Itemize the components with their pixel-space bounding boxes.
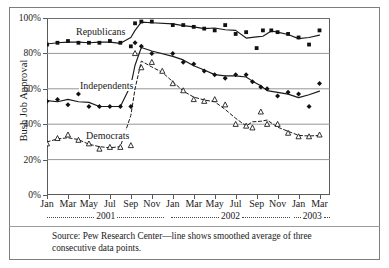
y-tick-mark-80 — [43, 53, 47, 54]
x-tick-label-2: May — [80, 198, 98, 209]
x-tick-label-9: Jul — [230, 198, 242, 209]
datapoint-republicans-17 — [223, 23, 227, 27]
datapoint-independents-17 — [223, 76, 228, 81]
year-band-2002: 2002 — [171, 211, 290, 223]
year-band-label: 2003 — [301, 212, 324, 222]
datapoint-independents-9 — [133, 40, 138, 45]
datapoint-republicans-8 — [129, 44, 133, 48]
plot-area: 0%20%40%60%80%100%RepublicansIndependent… — [47, 18, 330, 195]
datapoint-independents-3 — [76, 92, 81, 97]
x-axis-year-bands: 200120022003 — [47, 211, 330, 224]
datapoint-republicans-25 — [297, 36, 301, 40]
datapoint-independents-16 — [212, 72, 217, 77]
series-label-independents: Independents — [79, 80, 134, 91]
y-tick-label-60: 60% — [1, 84, 41, 94]
datapoint-independents-7 — [118, 104, 123, 109]
x-tick-label-11: Nov — [269, 198, 286, 209]
year-band-2001: 2001 — [47, 211, 164, 223]
datapoint-independents-26 — [307, 104, 312, 109]
series-label-republicans: Republicans — [75, 26, 126, 37]
datapoint-democrats-6 — [107, 144, 112, 149]
year-band-rule-left — [171, 217, 219, 218]
x-tick-label-10: Sep — [249, 198, 264, 209]
datapoint-republicans-13 — [181, 23, 185, 27]
datapoint-independents-5 — [97, 104, 102, 109]
y-tick-label-20: 20% — [1, 155, 41, 165]
datapoint-republicans-21 — [261, 28, 265, 32]
x-tick-label-6: Jan — [166, 198, 179, 209]
datapoint-independents-14 — [191, 62, 196, 67]
x-tick-label-8: May — [206, 198, 224, 209]
datapoint-republicans-11 — [150, 20, 154, 24]
datapoint-democrats-11 — [149, 59, 154, 64]
y-tick-label-80: 80% — [1, 48, 41, 58]
datapoint-republicans-19 — [244, 30, 248, 34]
datapoint-independents-23 — [275, 93, 280, 98]
x-tick-label-12: Jan — [292, 198, 305, 209]
datapoint-independents-4 — [86, 104, 91, 109]
y-tick-label-40: 40% — [1, 119, 41, 129]
datapoint-independents-0 — [47, 99, 50, 104]
datapoint-republicans-14 — [192, 25, 196, 29]
y-tick-mark-40 — [43, 124, 47, 125]
datapoint-republicans-18 — [234, 32, 238, 36]
datapoint-democrats-2 — [65, 132, 70, 137]
year-band-rule-right — [117, 217, 164, 218]
datapoint-independents-12 — [170, 51, 175, 56]
datapoint-democrats-8 — [128, 143, 133, 148]
datapoint-republicans-9 — [133, 21, 137, 25]
datapoint-republicans-1 — [56, 41, 60, 45]
x-tick-label-0: Jan — [40, 198, 53, 209]
datapoint-democrats-12 — [160, 68, 165, 73]
datapoint-republicans-15 — [202, 27, 206, 31]
chart-canvas — [47, 18, 330, 195]
datapoint-republicans-20 — [255, 46, 259, 50]
year-band-label: 2002 — [219, 212, 242, 222]
y-tick-mark-60 — [43, 89, 47, 90]
datapoint-republicans-7 — [118, 41, 122, 45]
datapoint-republicans-16 — [213, 28, 217, 32]
y-tick-mark-20 — [43, 160, 47, 161]
datapoint-independents-2 — [65, 102, 70, 107]
year-band-label: 2001 — [94, 212, 117, 222]
footnote-divider — [9, 226, 380, 227]
datapoint-independents-6 — [107, 104, 112, 109]
year-band-rule-left — [47, 217, 94, 218]
datapoint-republicans-24 — [286, 32, 290, 36]
datapoint-republicans-0 — [47, 43, 49, 47]
datapoint-republicans-22 — [269, 28, 273, 32]
y-tick-label-100: 100% — [1, 13, 41, 23]
datapoint-democrats-18 — [223, 102, 228, 107]
datapoint-democrats-1 — [55, 136, 60, 141]
datapoint-democrats-28 — [317, 132, 322, 137]
datapoint-democrats-22 — [258, 109, 263, 114]
x-tick-label-13: Mar — [311, 198, 328, 209]
year-band-rule-right — [242, 217, 290, 218]
source-note: Source: Pew Research Center—line shows s… — [52, 231, 352, 254]
x-tick-label-7: Mar — [185, 198, 202, 209]
series-independents — [47, 40, 322, 109]
x-tick-label-1: Mar — [60, 198, 77, 209]
figure-root: Bush Job Approval 0%20%40%60%80%100%Repu… — [0, 0, 389, 268]
datapoint-republicans-4 — [87, 41, 91, 45]
series-label-democrats: Democrats — [85, 130, 130, 141]
x-tick-label-3: Jul — [104, 198, 116, 209]
datapoint-republicans-2 — [66, 39, 70, 43]
datapoint-democrats-17 — [212, 97, 217, 102]
x-tick-label-5: Nov — [143, 198, 160, 209]
x-tick-label-4: Sep — [123, 198, 138, 209]
datapoint-republicans-26 — [307, 43, 311, 47]
datapoint-independents-25 — [296, 92, 301, 97]
datapoint-independents-27 — [317, 81, 322, 86]
y-tick-mark-100 — [43, 18, 47, 19]
x-axis-tick-labels: JanMarMayJulSepNovJanMarMayJulSepNovJanM… — [47, 198, 330, 212]
y-tick-label-0: 0% — [1, 190, 41, 200]
year-band-rule-right — [324, 217, 330, 218]
trendline-independents — [47, 48, 320, 107]
datapoint-republicans-6 — [108, 39, 112, 43]
datapoint-republicans-10 — [139, 20, 143, 24]
datapoint-republicans-3 — [77, 41, 81, 45]
year-band-2003: 2003 — [294, 211, 330, 223]
datapoint-republicans-23 — [276, 30, 280, 34]
datapoint-republicans-5 — [98, 41, 102, 45]
